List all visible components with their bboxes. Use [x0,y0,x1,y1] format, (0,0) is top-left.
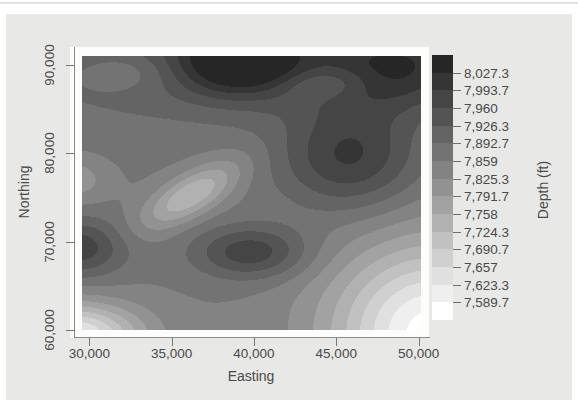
y-tick-label: 70,000 [42,221,57,262]
colorbar-band [432,108,453,126]
colorbar-tick-mark [453,267,461,268]
colorbar-band [432,302,453,320]
colorbar-tick-label: 7,589.7 [464,295,509,310]
colorbar-tick-mark [453,143,461,144]
colorbar-tick-label: 7,690.7 [464,242,509,257]
colorbar-title: Depth (ft) [535,161,551,219]
page-edge-line [0,2,578,4]
colorbar-tick-mark [453,285,461,286]
colorbar-tick-label: 7,926.3 [464,118,509,133]
colorbar-band [432,90,453,108]
y-axis-title: Northing [16,166,32,219]
colorbar-band [432,267,453,285]
x-tick-mark [336,338,337,346]
colorbar-tick-mark [453,214,461,215]
y-tick-mark [66,153,74,154]
colorbar-tick-mark [453,232,461,233]
colorbar-band [432,232,453,250]
colorbar-band [432,179,453,197]
colorbar-tick-label: 7,758 [464,207,498,222]
y-tick-label: 60,000 [42,309,57,350]
x-tick-mark [419,338,420,346]
colorbar-band [432,196,453,214]
figure: 30,00035,00040,00045,00050,00060,00070,0… [0,0,578,411]
colorbar-band [432,161,453,179]
x-tick-label: 40,000 [233,346,274,361]
y-tick-mark [66,330,74,331]
colorbar-tick-mark [453,73,461,74]
y-tick-label: 90,000 [42,44,57,85]
colorbar-tick-label: 7,791.7 [464,189,509,204]
colorbar-band [432,285,453,303]
colorbar-tick-label: 7,993.7 [464,83,509,98]
x-tick-label: 50,000 [398,346,439,361]
colorbar-tick-label: 7,724.3 [464,224,509,239]
colorbar-tick-label: 7,892.7 [464,136,509,151]
colorbar-tick-mark [453,196,461,197]
colorbar-tick-label: 7,657 [464,260,498,275]
y-tick-mark [66,65,74,66]
x-tick-mark [254,338,255,346]
colorbar-tick-mark [453,108,461,109]
x-tick-label: 30,000 [69,346,110,361]
colorbar-band [432,126,453,144]
x-tick-mark [89,338,90,346]
x-tick-label: 35,000 [151,346,192,361]
colorbar-tick-mark [453,302,461,303]
x-axis-line [74,337,430,338]
colorbar-tick-label: 7,825.3 [464,171,509,186]
colorbar-tick-mark [453,161,461,162]
y-axis-line [74,47,75,338]
x-tick-label: 45,000 [316,346,357,361]
colorbar-band [432,249,453,267]
colorbar-tick-mark [453,179,461,180]
colorbar-band [432,73,453,91]
x-tick-mark [172,338,173,346]
colorbar-band [432,55,453,73]
colorbar-tick-mark [453,126,461,127]
colorbar-tick-mark [453,249,461,250]
colorbar-band [432,143,453,161]
contour-plot [82,56,421,330]
colorbar-band [432,214,453,232]
y-tick-label: 80,000 [42,133,57,174]
colorbar-tick-label: 8,027.3 [464,65,509,80]
colorbar-tick-label: 7,859 [464,154,498,169]
x-axis-title: Easting [228,368,275,384]
colorbar-tick-label: 7,960 [464,101,498,116]
colorbar-tick-label: 7,623.3 [464,277,509,292]
colorbar-tick-mark [453,90,461,91]
y-tick-mark [66,242,74,243]
